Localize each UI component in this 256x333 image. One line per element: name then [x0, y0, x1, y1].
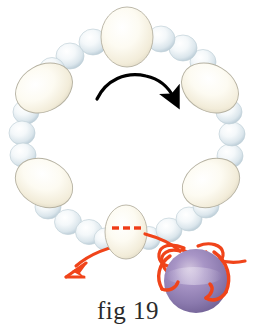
bottom-clasp-bead	[105, 205, 147, 259]
figure-caption: fig 19	[0, 296, 256, 326]
purple-bead-sheen	[166, 267, 222, 285]
large-bead-group	[7, 7, 249, 217]
small-bead	[9, 121, 35, 145]
top-large-bead	[101, 7, 153, 67]
necklace-diagram	[0, 0, 256, 333]
figure-root: fig 19	[0, 0, 256, 333]
small-bead	[219, 122, 245, 146]
clasp-bead-body	[105, 205, 147, 259]
rotation-direction-arrow	[97, 75, 174, 99]
